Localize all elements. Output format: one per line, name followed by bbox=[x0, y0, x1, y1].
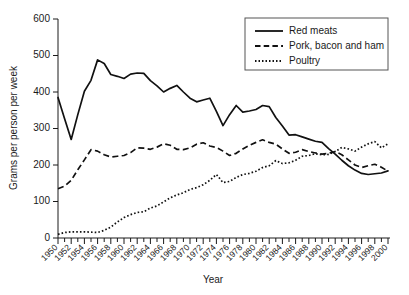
y-tick-label: 300 bbox=[33, 122, 50, 133]
y-tick-label: 600 bbox=[33, 13, 50, 24]
y-tick-label: 100 bbox=[33, 195, 50, 206]
y-tick-group: 0100200300400500600 bbox=[33, 13, 58, 243]
data-series-group bbox=[58, 60, 388, 234]
legend-label-0: Red meats bbox=[289, 25, 337, 36]
y-tick-label: 0 bbox=[44, 232, 50, 243]
page-caption-fragment bbox=[190, 286, 400, 295]
legend-label-1: Pork, bacon and ham bbox=[289, 40, 384, 51]
chart-legend: Red meatsPork, bacon and hamPoultry bbox=[245, 18, 388, 70]
legend-label-2: Poultry bbox=[289, 55, 320, 66]
x-axis-title: Year bbox=[203, 274, 224, 285]
y-axis: 0100200300400500600 Grams per person per… bbox=[8, 13, 58, 243]
x-tick-group: 1950195219541956195819601962196419661968… bbox=[39, 238, 390, 263]
y-tick-label: 200 bbox=[33, 159, 50, 170]
series-line-red-meats bbox=[58, 60, 388, 175]
x-axis: 1950195219541956195819601962196419661968… bbox=[39, 238, 390, 285]
y-tick-label: 400 bbox=[33, 86, 50, 97]
y-axis-title: Grams per person per week bbox=[8, 65, 19, 190]
series-line-pork-bacon-and-ham bbox=[58, 140, 388, 189]
y-tick-label: 500 bbox=[33, 49, 50, 60]
chart-figure: 0100200300400500600 Grams per person per… bbox=[0, 0, 409, 295]
meat-consumption-line-chart: 0100200300400500600 Grams per person per… bbox=[0, 0, 409, 295]
